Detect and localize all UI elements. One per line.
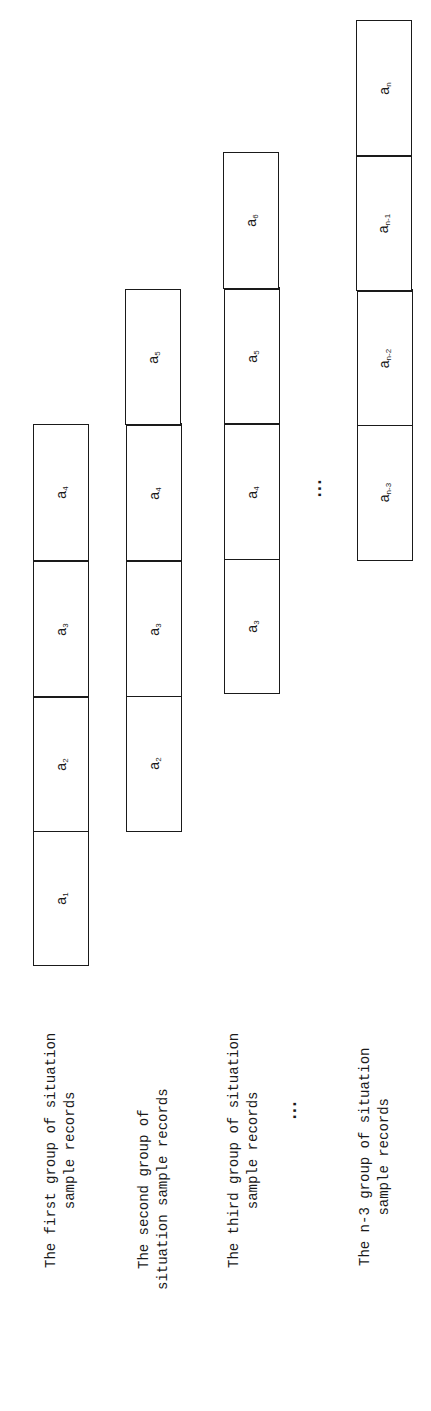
cell-g3-4: a6 — [223, 152, 279, 289]
cell-gn-4: an — [356, 20, 412, 156]
cell-g3-3: a5 — [224, 287, 280, 424]
group-3-label-line2: sample records — [244, 1033, 263, 1268]
cell-g3-1: a3 — [224, 558, 280, 694]
cell-gn-1: an-3 — [357, 424, 413, 561]
cell-g2-4: a5 — [125, 289, 181, 425]
ellipsis-label-column: ... — [283, 1101, 299, 1120]
group-2-label-line1: The second group of — [135, 1088, 154, 1290]
cell-gn-2: an-2 — [357, 289, 413, 426]
cell-g3-2: a4 — [224, 422, 280, 560]
cell-g1-2: a2 — [33, 695, 89, 832]
cell-g1-4: a4 — [33, 424, 89, 561]
group-n3-label-line1: The n-3 group of situation — [356, 1048, 375, 1266]
cell-g1-3: a3 — [33, 559, 89, 697]
group-1-label-line1: The first group of situation — [42, 1033, 61, 1268]
group-n3-label-line2: sample records — [375, 1048, 394, 1266]
cell-g2-2: a3 — [126, 559, 182, 697]
group-3-label: The third group of situation sample reco… — [225, 1033, 263, 1268]
cell-g2-1: a2 — [126, 695, 182, 832]
group-2-label: The second group of situation sample rec… — [135, 1088, 173, 1290]
group-n3-label: The n-3 group of situation sample record… — [356, 1048, 394, 1266]
cell-g2-3: a4 — [126, 423, 182, 561]
group-2-label-line2: situation sample records — [154, 1088, 173, 1290]
group-1-label: The first group of situation sample reco… — [42, 1033, 80, 1268]
ellipsis-cells-column: ... — [308, 479, 324, 498]
group-1-label-line2: sample records — [61, 1033, 80, 1268]
cell-gn-3: an-1 — [356, 154, 412, 291]
cell-g1-1: a1 — [33, 830, 89, 966]
group-3-label-line1: The third group of situation — [225, 1033, 244, 1268]
